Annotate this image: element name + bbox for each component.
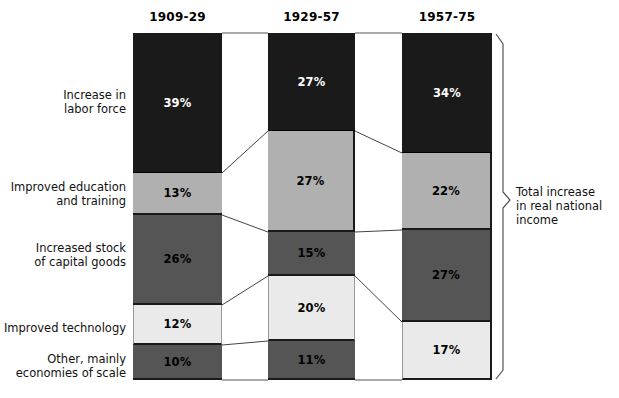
bar-segment[interactable]: 26% [133,215,222,305]
column-header-2: 1929-57 [268,10,355,24]
bar-segment[interactable]: 15% [268,232,355,276]
bar-segment-value: 26% [163,252,191,266]
bar-segment[interactable]: 20% [268,276,355,341]
bar-segment-value: 34% [433,86,461,100]
bar-segment-value: 12% [163,317,191,331]
total-increase-annotation: Total increase in real national income [516,185,616,227]
column-header-3: 1957-75 [402,10,492,24]
row-label-education-training: Improved education and training [0,180,126,208]
bar-segment[interactable]: 10% [133,345,222,380]
bar-segment[interactable]: 27% [268,131,355,232]
bar-segment-value: 27% [296,174,324,188]
bar-segment[interactable]: 17% [402,322,492,380]
bar-segment[interactable]: 27% [402,230,492,322]
stacked-bar-chart: 1909-29 1929-57 1957-75 Increase in labo… [0,0,619,398]
bar-segment-value: 13% [163,186,191,200]
bar-column-1929-57: 27% 27% 15% 20% 11% [268,33,355,380]
bar-segment-value: 11% [297,353,325,367]
bar-segment[interactable]: 27% [268,33,355,131]
bar-segment-value: 10% [163,355,191,369]
row-label-improved-technology: Improved technology [0,321,126,335]
row-label-labor-force: Increase in labor force [0,88,126,116]
bar-segment[interactable]: 12% [133,305,222,345]
row-label-other-economies: Other, mainly economies of scale [0,352,126,380]
bar-column-1909-29: 39% 13% 26% 12% 10% [133,33,222,380]
bar-segment[interactable]: 13% [133,173,222,215]
bar-segment[interactable]: 34% [402,33,492,153]
bar-segment-value: 27% [432,268,460,282]
bar-segment-value: 17% [432,343,460,357]
row-label-capital-goods: Increased stock of capital goods [0,241,126,269]
bar-segment[interactable]: 39% [133,33,222,173]
column-header-1: 1909-29 [133,10,222,24]
bar-column-1957-75: 34% 22% 27% 17% [402,33,492,380]
bar-segment[interactable]: 22% [402,153,492,230]
bar-segment-value: 22% [432,184,460,198]
bar-segment-value: 15% [297,246,325,260]
bar-segment-value: 27% [297,75,325,89]
bar-segment-value: 20% [297,301,325,315]
bar-segment[interactable]: 11% [268,341,355,380]
bar-segment-value: 39% [163,96,191,110]
